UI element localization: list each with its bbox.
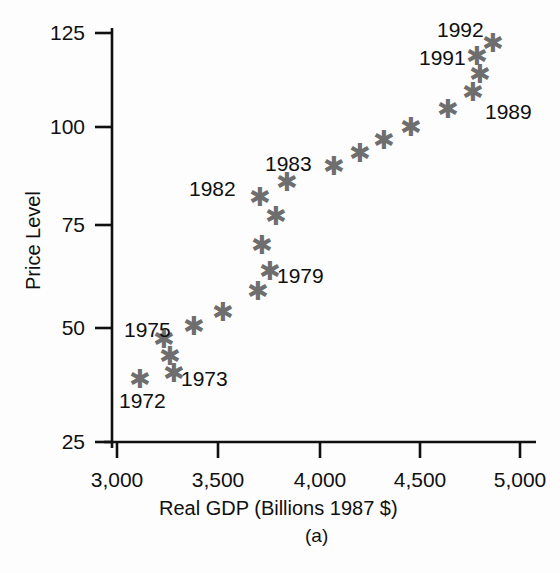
point-label-1983: 1983	[265, 152, 312, 176]
point-label-1979: 1979	[277, 264, 324, 288]
x-tick-label-5000: 5,000	[470, 468, 560, 492]
y-axis-title: Price Level	[22, 191, 45, 290]
x-tick-label-3500: 3,500	[168, 468, 268, 492]
y-tick-label-100: 100	[30, 115, 85, 139]
point-label-1975: 1975	[124, 318, 171, 342]
y-tick-label-25: 25	[30, 430, 85, 454]
point-label-1989: 1989	[485, 100, 532, 124]
x-tick-label-4500: 4,500	[370, 468, 470, 492]
point-label-1973: 1973	[181, 367, 228, 391]
y-tick-label-50: 50	[30, 316, 85, 340]
point-label-1982: 1982	[189, 177, 236, 201]
figure-caption: (a)	[305, 525, 328, 547]
x-tick-label-4000: 4,000	[270, 468, 370, 492]
point-label-1992: 1992	[437, 18, 484, 42]
point-label-1972: 1972	[119, 389, 166, 413]
y-tick-label-125: 125	[30, 21, 85, 45]
point-label-1991: 1991	[419, 46, 466, 70]
x-axis-title: Real GDP (Billions 1987 $)	[159, 497, 398, 520]
figure-panel-a: 125 100 75 50 25 3,000 3,500 4,000 4,500…	[0, 0, 560, 573]
x-tick-label-3000: 3,000	[67, 468, 167, 492]
